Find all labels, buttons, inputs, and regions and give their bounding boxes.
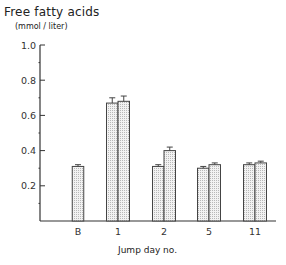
axes: 0.20.40.60.81.0 — [21, 40, 276, 222]
bars — [72, 96, 266, 221]
x-tick-labels: B12511 — [75, 226, 261, 237]
y-tick-label: 0.4 — [21, 145, 36, 156]
x-tick-label: 1 — [115, 226, 121, 237]
bar — [244, 165, 256, 221]
y-tick-label: 1.0 — [21, 40, 36, 51]
bar — [72, 166, 84, 221]
bar — [164, 151, 176, 221]
bar — [107, 103, 119, 221]
x-tick-label: 5 — [206, 226, 212, 237]
x-tick-label: 11 — [249, 226, 261, 237]
bar — [153, 166, 165, 221]
bar — [198, 168, 210, 221]
bar — [255, 163, 267, 221]
bar — [118, 101, 130, 221]
y-tick-label: 0.8 — [21, 75, 36, 86]
y-tick-label: 0.2 — [21, 180, 36, 191]
bar-chart: 0.20.40.60.81.0 B12511 — [0, 0, 286, 265]
y-tick-label: 0.6 — [21, 110, 36, 121]
x-tick-label: B — [75, 226, 82, 237]
x-tick-label: 2 — [161, 226, 167, 237]
bar — [209, 165, 221, 221]
